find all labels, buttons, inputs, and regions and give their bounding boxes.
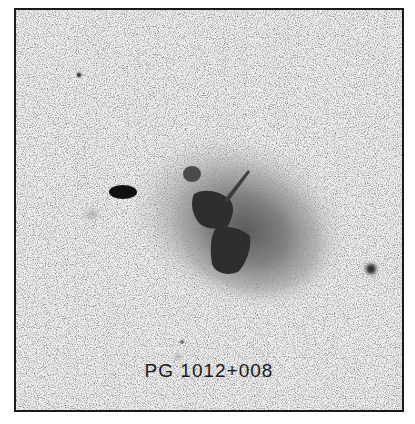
faint-source [80,204,104,224]
galaxy-image [16,10,402,410]
star [362,260,380,278]
image-frame: PG 1012+008 [14,8,404,412]
companion-galaxy [109,185,137,199]
star [180,340,184,344]
object-label: PG 1012+008 [16,360,402,382]
star [75,71,83,79]
